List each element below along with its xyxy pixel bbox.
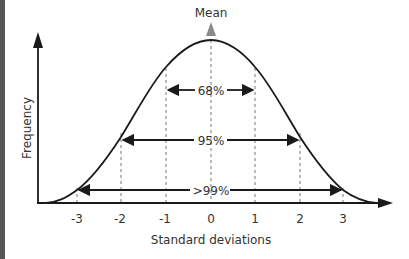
tick-label: -1 (159, 212, 171, 226)
tick-label: -3 (71, 212, 83, 226)
mean-label: Mean (195, 6, 228, 20)
band-68-label: 68% (198, 84, 225, 98)
x-tick-labels: -3 -2 -1 0 1 2 3 (71, 212, 347, 226)
sd-guide-lines (77, 40, 343, 203)
y-axis-label: Frequency (20, 97, 34, 159)
tick-label: 0 (207, 212, 215, 226)
y-axis-arrow-icon (33, 32, 43, 48)
band-95-label: 95% (198, 134, 225, 148)
tick-label: 3 (339, 212, 347, 226)
tick-label: 1 (251, 212, 259, 226)
tick-label: 2 (296, 212, 304, 226)
tick-label: -2 (114, 212, 126, 226)
normal-distribution-chart: Mean 68% 95% >99% Frequency Standard dev… (0, 0, 409, 259)
band-99-label: >99% (193, 184, 230, 198)
mean-arrow-icon (206, 22, 216, 36)
x-axis-label: Standard deviations (151, 233, 271, 247)
x-axis-arrow-icon (378, 198, 393, 208)
